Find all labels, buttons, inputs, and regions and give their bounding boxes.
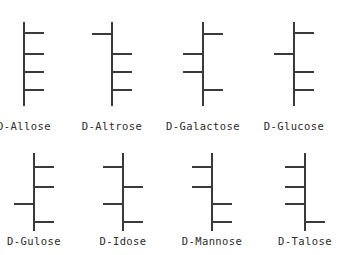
molecule-row-top: D-AlloseD-AltroseD-GalactoseD-Glucose xyxy=(0,0,350,140)
molecule-d-glucose: D-Glucose xyxy=(250,0,338,140)
fischer-skeleton xyxy=(68,0,156,140)
molecule-label: D-Gulose xyxy=(0,235,78,247)
molecule-d-talose: D-Talose xyxy=(261,145,349,255)
molecule-label: D-Glucose xyxy=(250,120,338,132)
molecule-label: D-Mannose xyxy=(168,235,256,247)
molecule-d-gulose: D-Gulose xyxy=(0,145,78,255)
molecule-label: D-Galactose xyxy=(159,120,247,132)
molecule-label: D-Allose xyxy=(0,120,68,132)
molecule-row-bottom: D-GuloseD-IdoseD-MannoseD-Talose xyxy=(0,145,350,255)
molecule-d-mannose: D-Mannose xyxy=(168,145,256,255)
fischer-skeleton xyxy=(159,0,247,140)
fischer-projection-figure: D-AlloseD-AltroseD-GalactoseD-Glucose D-… xyxy=(0,0,350,255)
fischer-skeleton xyxy=(250,0,338,140)
molecule-d-galactose: D-Galactose xyxy=(159,0,247,140)
molecule-label: D-Altrose xyxy=(68,120,156,132)
molecule-d-allose: D-Allose xyxy=(0,0,68,140)
molecule-label: D-Talose xyxy=(261,235,349,247)
fischer-skeleton xyxy=(0,0,68,140)
molecule-d-idose: D-Idose xyxy=(79,145,167,255)
molecule-label: D-Idose xyxy=(79,235,167,247)
molecule-d-altrose: D-Altrose xyxy=(68,0,156,140)
